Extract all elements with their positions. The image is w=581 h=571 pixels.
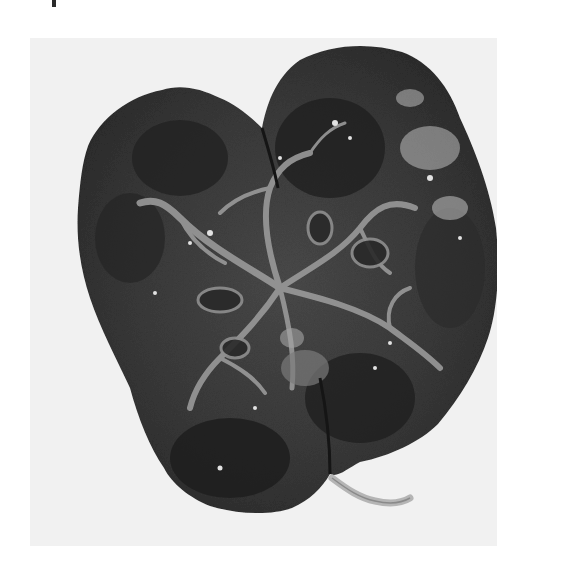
kidney-specimen-illustration <box>30 38 497 546</box>
specimen-photograph <box>30 38 497 546</box>
pale-patch <box>432 196 468 220</box>
pale-patch <box>400 126 460 170</box>
cropped-text-fragment <box>52 0 56 7</box>
ureter <box>332 478 410 503</box>
pale-patch <box>396 89 424 107</box>
pyramid-upper-right <box>275 98 385 198</box>
pyramid-right <box>415 208 485 328</box>
pyramid-lower-left <box>170 418 290 498</box>
page <box>0 0 581 571</box>
pyramid-left <box>95 193 165 283</box>
renal-pelvis <box>280 328 304 348</box>
pyramid-upper-left <box>132 120 228 196</box>
